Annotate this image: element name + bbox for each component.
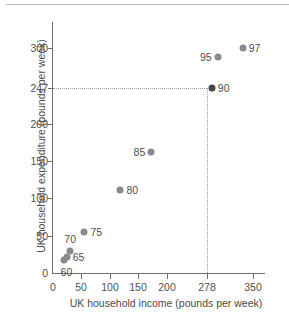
page-top-rule xyxy=(6,4,289,5)
x-tick-100 xyxy=(110,274,111,279)
y-tick-300 xyxy=(48,48,53,49)
data-point-label-65: 65 xyxy=(73,251,85,263)
data-point-label-60: 60 xyxy=(61,266,73,278)
guide-line-horizontal-247 xyxy=(53,88,207,89)
y-tick-247 xyxy=(48,88,53,89)
x-tick-label-200: 200 xyxy=(147,281,187,293)
guide-line-vertical-278 xyxy=(207,88,208,273)
data-point-90 xyxy=(208,84,215,91)
y-tick-100 xyxy=(48,198,53,199)
x-tick-150 xyxy=(138,274,139,279)
data-point-label-75: 75 xyxy=(90,226,102,238)
data-point-label-97: 97 xyxy=(249,42,261,54)
x-tick-278 xyxy=(207,274,208,279)
data-point-70 xyxy=(67,247,74,254)
data-point-label-90: 90 xyxy=(218,82,230,94)
data-point-80 xyxy=(117,186,124,193)
x-axis-title: UK household income (pounds per week) xyxy=(52,297,280,309)
data-point-label-95: 95 xyxy=(200,51,212,63)
x-tick-label-350: 350 xyxy=(233,281,273,293)
y-tick-200 xyxy=(48,124,53,125)
y-tick-150 xyxy=(48,161,53,162)
x-tick-label-278: 278 xyxy=(187,281,227,293)
data-point-65 xyxy=(63,253,70,260)
y-axis-title: UK household expenditure (pounds per wee… xyxy=(35,21,47,271)
x-tick-200 xyxy=(167,274,168,279)
scatter-plot-figure: 300 247 200 150 100 50 0 0 50 100 150 20… xyxy=(0,0,289,318)
x-tick-50 xyxy=(81,274,82,279)
data-point-label-85: 85 xyxy=(134,146,146,158)
data-point-label-70: 70 xyxy=(64,233,76,245)
x-tick-350 xyxy=(253,274,254,279)
x-axis-line xyxy=(52,273,265,274)
data-point-95 xyxy=(214,54,221,61)
y-tick-50 xyxy=(48,236,53,237)
data-point-97 xyxy=(239,45,246,52)
data-point-75 xyxy=(81,228,88,235)
data-point-85 xyxy=(148,148,155,155)
data-point-label-80: 80 xyxy=(126,184,138,196)
